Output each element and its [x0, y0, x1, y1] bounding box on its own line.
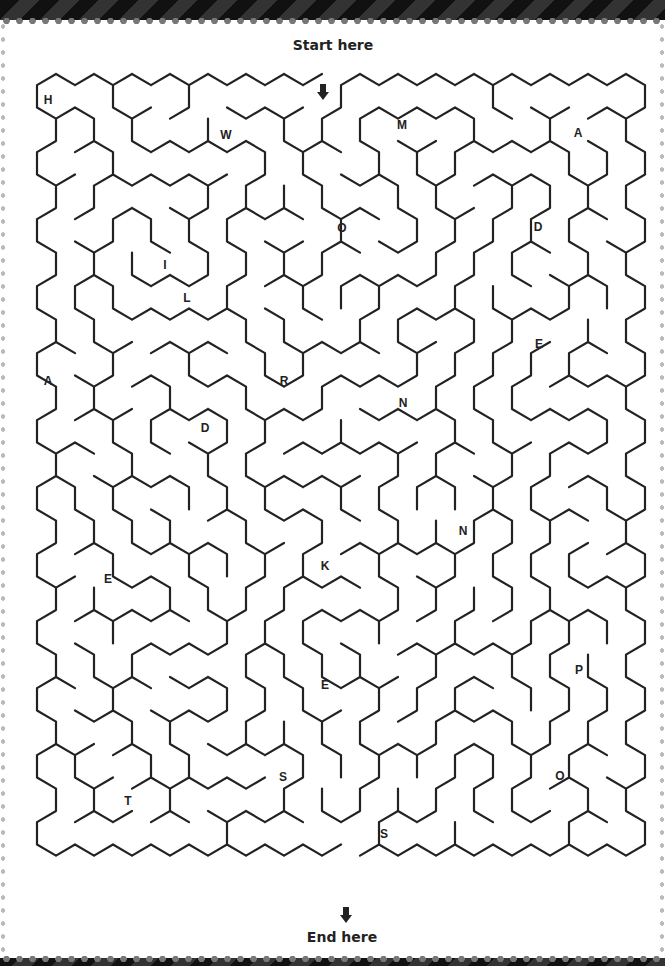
maze-letter: P [575, 663, 583, 677]
maze-letter: L [183, 291, 190, 305]
hex-maze[interactable] [0, 0, 665, 966]
maze-letter: I [163, 258, 166, 272]
maze-letter: M [397, 118, 407, 132]
maze-letter: A [44, 374, 53, 388]
maze-letter: O [555, 769, 564, 783]
end-label: End here [307, 929, 377, 945]
maze-letter: E [535, 337, 543, 351]
maze-letter: E [321, 678, 329, 692]
arrow-down-icon [340, 907, 352, 923]
maze-letter: O [337, 221, 346, 235]
maze-letter: E [104, 572, 112, 586]
maze-letter: H [44, 93, 53, 107]
maze-letter: D [534, 220, 543, 234]
maze-letter: R [280, 374, 289, 388]
maze-letter: N [459, 524, 468, 538]
maze-letter: S [380, 827, 388, 841]
maze-letter: S [279, 770, 287, 784]
maze-letter: N [399, 396, 408, 410]
maze-walls [37, 74, 645, 856]
maze-letter: A [574, 126, 583, 140]
maze-letter: D [201, 421, 210, 435]
maze-letter: T [124, 794, 131, 808]
maze-letter: W [220, 128, 231, 142]
maze-letter: K [321, 559, 330, 573]
